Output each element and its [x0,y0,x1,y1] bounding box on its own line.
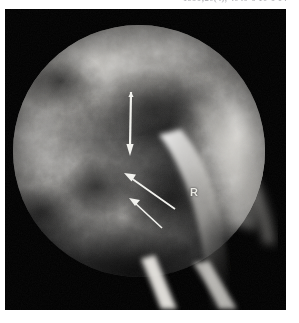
pubic-ramus-density-layer [13,25,265,277]
fluoroscopy-field [13,25,265,277]
running-head-text: 1996;20(4), 4040-6 10-6 14 [183,0,287,3]
field-vignette [13,25,265,277]
femoral-cortex-density-layer [13,25,265,277]
page-running-head: 1996;20(4), 4040-6 10-6 14 [0,0,299,6]
radiograph-figure: R [5,9,286,310]
iliac-bone-density-layer [13,25,265,277]
side-marker-r: R [190,187,198,198]
trabecular-texture-layer [13,25,265,277]
soft-tissue-lucency-layer [13,25,265,277]
